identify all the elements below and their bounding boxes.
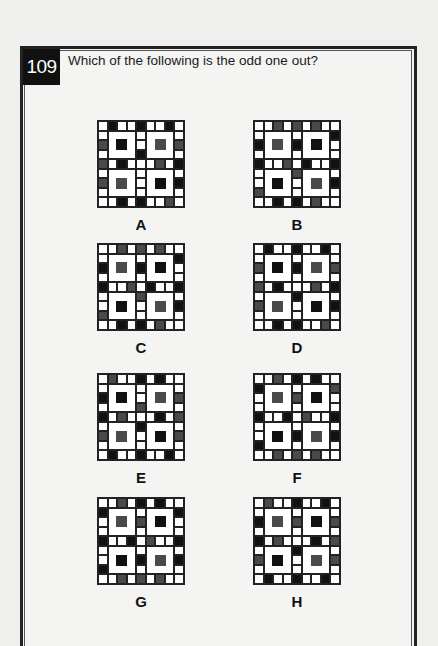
grid-cell [321,412,331,422]
window-square [146,169,175,198]
pattern-grid[interactable] [253,120,341,208]
grid-cell [136,384,146,394]
window-center-square [311,262,322,273]
pattern-grid[interactable] [253,243,341,331]
window-center-square [155,392,166,403]
grid-cell [174,150,184,160]
grid-cell [330,131,340,141]
grid-cell [302,244,312,254]
window-center-square [116,431,127,442]
grid-cell [98,517,108,527]
window-center-square [116,178,127,189]
grid-cell [273,574,283,584]
grid-cell [302,320,312,330]
grid-cell [98,441,108,451]
grid-cell [273,374,283,384]
grid-cell [136,150,146,160]
window-square [302,169,331,198]
grid-cell [146,536,156,546]
grid-cell [98,412,108,422]
grid-cell [146,320,156,330]
grid-cell [117,450,127,460]
grid-cell [117,536,127,546]
grid-cell [165,121,175,131]
grid-cell [292,517,302,527]
grid-cell [273,121,283,131]
grid-cell [330,244,340,254]
grid-cell [165,412,175,422]
grid-cell [254,263,264,273]
grid-cell [292,565,302,575]
grid-cell [311,320,321,330]
grid-cell [302,282,312,292]
grid-cell [254,169,264,179]
grid-cell [174,131,184,141]
grid-cell [330,527,340,537]
pattern-grid[interactable] [97,120,185,208]
pattern-grid[interactable] [253,497,341,585]
grid-cell [108,121,118,131]
grid-cell [330,169,340,179]
window-square [264,131,293,160]
window-square [146,508,175,537]
grid-cell [264,450,274,460]
grid-cell [330,263,340,273]
grid-cell [292,320,302,330]
grid-cell [155,498,165,508]
grid-cell [330,282,340,292]
grid-cell [98,169,108,179]
grid-cell [311,374,321,384]
grid-cell [174,159,184,169]
window-center-square [155,301,166,312]
grid-cell [117,320,127,330]
grid-cell [98,574,108,584]
grid-cell [136,374,146,384]
grid-cell [254,565,264,575]
grid-cell [98,292,108,302]
pattern-grid[interactable] [97,497,185,585]
grid-cell [136,555,146,565]
grid-cell [330,517,340,527]
grid-cell [321,197,331,207]
grid-cell [292,374,302,384]
grid-cell [136,282,146,292]
grid-cell [136,131,146,141]
grid-cell [330,140,340,150]
grid-cell [136,263,146,273]
grid-cell [311,121,321,131]
grid-cell [321,536,331,546]
window-square [146,546,175,575]
grid-cell [254,546,264,556]
grid-cell [98,374,108,384]
grid-cell [264,159,274,169]
grid-cell [254,244,264,254]
grid-cell [127,121,137,131]
window-square [108,384,137,413]
grid-cell [136,441,146,451]
grid-cell [174,393,184,403]
grid-cell [264,244,274,254]
window-center-square [116,139,127,150]
grid-cell [321,244,331,254]
question-number: 109 [23,49,60,85]
pattern-grid[interactable] [253,373,341,461]
grid-cell [264,574,274,584]
grid-cell [273,412,283,422]
window-center-square [155,431,166,442]
grid-cell [165,574,175,584]
grid-cell [127,320,137,330]
grid-cell [174,244,184,254]
grid-cell [254,254,264,264]
grid-cell [174,546,184,556]
pattern-grid[interactable] [97,243,185,331]
grid-cell [98,273,108,283]
grid-cell [330,197,340,207]
grid-cell [155,197,165,207]
grid-cell [136,536,146,546]
grid-cell [273,159,283,169]
grid-cell [283,574,293,584]
pattern-grid[interactable] [97,373,185,461]
grid-cell [98,197,108,207]
grid-cell [136,422,146,432]
grid-cell [108,282,118,292]
